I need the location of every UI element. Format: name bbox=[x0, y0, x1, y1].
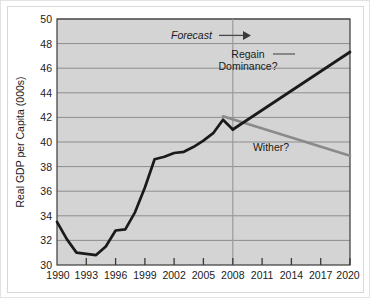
x-tick-label: 2008 bbox=[221, 269, 245, 281]
x-tick-label: 2017 bbox=[309, 269, 333, 281]
y-tick-label: 46 bbox=[40, 62, 52, 74]
forecast-annotation-label: Forecast bbox=[171, 29, 213, 41]
wither-annotation-label: Wither? bbox=[253, 141, 289, 153]
y-tick-label: 38 bbox=[40, 161, 52, 173]
y-tick-label: 32 bbox=[40, 234, 52, 246]
y-tick-label: 48 bbox=[40, 38, 52, 50]
y-tick-label: 50 bbox=[40, 13, 52, 25]
gdp-line-chart: 50 48 46 44 42 40 38 36 34 32 30 1990 19… bbox=[8, 7, 363, 292]
y-axis-tick-labels: 50 48 46 44 42 40 38 36 34 32 30 bbox=[40, 13, 52, 271]
y-tick-label: 34 bbox=[40, 210, 52, 222]
y-tick-label: 44 bbox=[40, 87, 52, 99]
x-tick-label: 2011 bbox=[251, 269, 274, 281]
chart-figure: 50 48 46 44 42 40 38 36 34 32 30 1990 19… bbox=[7, 6, 364, 293]
x-axis-tick-labels: 1990 1993 1996 1999 2002 2005 2008 2011 … bbox=[46, 269, 360, 281]
x-tick-label: 2020 bbox=[336, 269, 360, 281]
y-tick-label: 40 bbox=[40, 136, 52, 148]
x-tick-label: 1993 bbox=[75, 269, 99, 281]
x-tick-label: 1999 bbox=[133, 269, 157, 281]
y-axis-title: Real GDP per Capita (000s) bbox=[14, 76, 26, 207]
regain-dominance-annotation-line2: Dominance? bbox=[219, 60, 278, 72]
x-tick-label: 1996 bbox=[104, 269, 128, 281]
y-tick-label: 36 bbox=[40, 185, 52, 197]
x-tick-label: 2005 bbox=[192, 269, 216, 281]
x-tick-label: 2002 bbox=[162, 269, 186, 281]
screenshot-frame: 50 48 46 44 42 40 38 36 34 32 30 1990 19… bbox=[0, 0, 370, 298]
regain-dominance-annotation-line1: Regain bbox=[231, 48, 264, 60]
y-tick-label: 42 bbox=[40, 111, 52, 123]
x-tick-label: 2014 bbox=[280, 269, 304, 281]
x-tick-label: 1990 bbox=[46, 269, 70, 281]
